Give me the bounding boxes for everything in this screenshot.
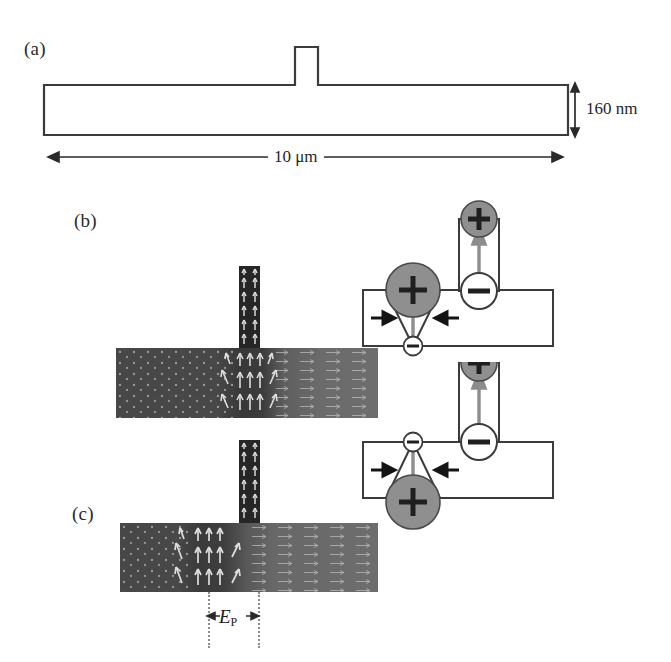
charge-schematic-b-drawing: [355, 196, 565, 366]
length-dimension-label: 10 μm: [268, 147, 324, 167]
panel-b-label: (b): [74, 210, 97, 232]
panel-c-label: (c): [72, 503, 94, 525]
charge-schematic-c-drawing: [355, 362, 565, 542]
stub-b-vectors: [239, 266, 260, 350]
thickness-dimension-label: 160 nm: [584, 99, 639, 119]
magnetization-vector-map-c-stub: [239, 440, 260, 524]
magnetization-vector-map-b: [116, 348, 378, 418]
magnetization-vector-map-b-stub: [239, 266, 260, 350]
stub-c-vectors: [239, 440, 260, 524]
band-c-vectors: [120, 523, 378, 592]
pinning-energy-label: EP: [219, 606, 237, 630]
figure-root: (a) 160 nm 10 μm (b): [0, 0, 671, 662]
band-b-vectors: [116, 348, 378, 418]
panel-a-drawing: [0, 0, 671, 190]
thickness-dimension-arrow: [571, 83, 579, 137]
charge-schematic-b: [355, 196, 565, 366]
charge-schematic-c: [355, 362, 565, 542]
nanowire-outline-shape: [44, 47, 568, 135]
magnetization-vector-map-c: [120, 523, 378, 592]
panel-a: (a) 160 nm 10 μm: [0, 0, 671, 190]
